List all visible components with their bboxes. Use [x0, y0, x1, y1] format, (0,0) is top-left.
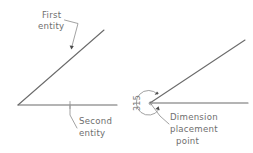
label-layer: First entity Second entity Dimension pla…: [0, 0, 253, 153]
second-entity-label-line1: Second: [79, 116, 112, 126]
placement-label-line2: placement: [170, 124, 218, 134]
first-entity-label-line2: entity: [38, 21, 64, 31]
figure-canvas: 315 First entity Second entity Dimension…: [0, 0, 253, 153]
second-entity-label-line2: entity: [79, 128, 105, 138]
placement-label-line3: point: [176, 136, 200, 146]
first-entity-label-line1: First: [42, 10, 62, 20]
placement-label-line1: Dimension: [170, 112, 218, 122]
